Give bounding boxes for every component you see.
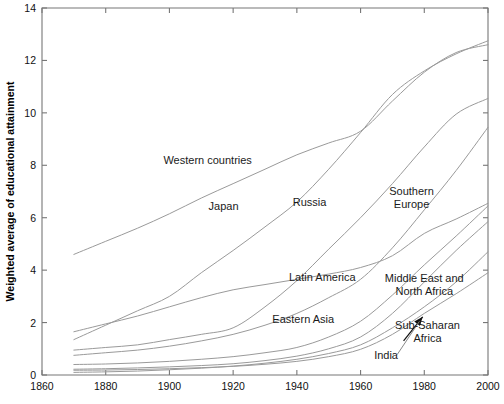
x-tick-label: 1900 [158,380,182,392]
x-tick-label: 1940 [285,380,309,392]
x-tick-label: 1980 [413,380,437,392]
x-tick-label: 1880 [94,380,118,392]
series-label: Eastern Asia [272,313,335,325]
y-tick-label: 8 [30,159,36,171]
y-tick-label: 4 [30,264,36,276]
x-tick-label: 2000 [476,380,500,392]
y-tick-label: 12 [24,54,36,66]
series-label: Latin America [289,271,357,283]
y-axis-title: Weighted average of educational attainme… [4,81,16,301]
y-tick-label: 0 [30,369,36,381]
series-label: Russia [293,196,328,208]
x-tick-label: 1960 [349,380,373,392]
line-chart: 1860188019001920194019601980200002468101… [0,0,504,404]
series-label: Sub-SaharanAfrica [395,319,460,344]
series-label: Western countries [163,154,252,166]
y-tick-label: 6 [30,212,36,224]
chart-figure: 1860188019001920194019601980200002468101… [0,0,504,404]
x-tick-label: 1920 [221,380,245,392]
series-line [74,45,488,255]
y-tick-label: 2 [30,317,36,329]
y-tick-label: 10 [24,107,36,119]
x-tick-label: 1860 [30,380,54,392]
y-tick-label: 14 [24,2,36,14]
series-label: Japan [209,200,239,212]
series-label: SouthernEurope [389,185,434,210]
series-label: Middle East andNorth Africa [385,272,464,297]
series-label: India [374,349,399,361]
